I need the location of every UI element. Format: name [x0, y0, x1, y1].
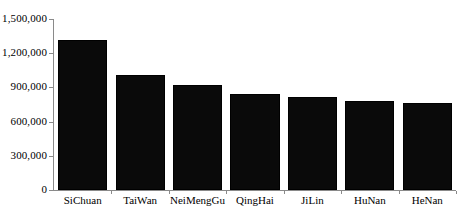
y-axis-tick — [49, 53, 53, 54]
x-axis-category-label: HeNan — [399, 194, 456, 206]
y-axis-tick — [49, 87, 53, 88]
plot-area — [54, 19, 456, 190]
x-axis-line — [53, 190, 456, 191]
y-axis-tick — [49, 190, 53, 191]
y-axis-tick — [49, 156, 53, 157]
x-axis-category-label: JiLin — [284, 194, 341, 206]
x-axis-category-label: NeiMengGu — [169, 194, 226, 206]
x-axis-tick — [456, 191, 457, 194]
y-axis-line — [53, 19, 54, 191]
y-axis-tick — [49, 19, 53, 20]
y-axis-tick-label: 900,000 — [11, 80, 47, 92]
y-axis-tick-label: 1,500,000 — [2, 12, 47, 24]
x-axis-category-label: HuNan — [341, 194, 398, 206]
x-axis-category-label: SiChuan — [54, 194, 111, 206]
bar — [116, 75, 165, 190]
x-axis-category-label: TaiWan — [111, 194, 168, 206]
bar — [230, 94, 279, 190]
bar — [345, 101, 394, 190]
bar-chart: 1,500,0001,200,000900,000600,000300,0000… — [0, 0, 467, 218]
bar — [58, 40, 107, 190]
y-axis-tick-label: 600,000 — [11, 115, 47, 127]
bar — [403, 103, 452, 190]
y-axis-tick — [49, 122, 53, 123]
y-axis-tick-label: 300,000 — [11, 149, 47, 161]
y-axis-tick-label: 0 — [41, 183, 47, 195]
x-axis-category-label: QingHai — [226, 194, 283, 206]
bar — [288, 97, 337, 190]
y-axis-tick-label: 1,200,000 — [2, 46, 47, 58]
bar — [173, 85, 222, 190]
